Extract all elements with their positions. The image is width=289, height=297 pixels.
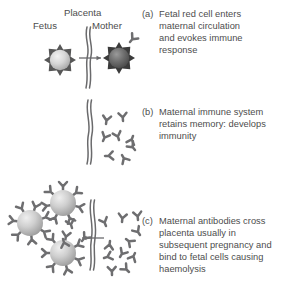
caption-c-tag: (c) [142,215,155,227]
label-fetus: Fetus [33,20,57,31]
antibody [127,33,138,44]
antibody [105,151,114,160]
antibody [105,240,114,249]
antibody [103,252,113,262]
placenta-barrier-b [87,100,93,164]
panel-a-art [44,27,138,88]
antibody [99,217,109,227]
antibody [99,132,110,143]
caption-b-text: Maternal immune system retains memory: d… [159,106,288,142]
antibody [127,135,137,145]
caption-b-tag: (b) [142,106,155,118]
label-mother: Mother [92,20,122,31]
coated-fetal-cell [42,232,84,275]
caption-c: (c) Maternal antibodies cross placenta u… [142,215,288,275]
maternal-side-red-cell [103,42,135,74]
antibody [118,113,127,122]
coated-fetal-cell [42,182,85,224]
antibody [118,214,127,223]
transfer-arrow-c [82,236,104,240]
antibody [102,116,111,125]
caption-a: (a) Fetal red cell enters maternal circu… [142,8,288,56]
antibody-cluster-c-right [99,212,143,276]
antibody [120,264,131,275]
caption-a-text: Fetal red cell enters maternal circulati… [159,8,288,56]
placenta-barrier-a [86,27,92,88]
antibody [124,236,135,247]
antibody [133,212,142,221]
transfer-arrow-a [79,56,101,60]
antibody [59,238,69,248]
fetal-red-cell [44,44,76,76]
placenta-barrier-c [90,200,96,270]
caption-b: (b) Maternal immune system retains memor… [142,106,288,142]
antibody-cluster-c-left [59,219,90,248]
antibody-cluster-b [99,113,138,164]
caption-c-text: Maternal antibodies cross placenta usual… [159,215,288,275]
antibody [117,248,128,259]
antibody [128,251,139,262]
antibody [127,141,138,152]
label-placenta: Placenta [64,7,101,18]
antibody [66,219,76,229]
antibody [113,131,123,141]
panel-c-art [9,182,144,275]
rh-disease-figure: Fetus Placenta Mother (a) Fetal red cell… [0,0,289,297]
panel-b-art [87,100,138,164]
caption-a-tag: (a) [142,8,155,20]
antibody [119,153,130,164]
antibody [79,232,90,243]
coated-fetal-cell [9,202,51,245]
antibody [108,267,116,275]
